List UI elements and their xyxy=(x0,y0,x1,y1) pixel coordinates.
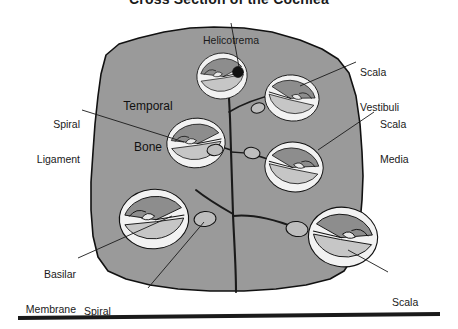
label-basilar-membrane-line1: Basilar xyxy=(2,269,76,281)
label-scala-media-line2: Media xyxy=(380,154,456,166)
label-spiral-ligament-line2: Ligament xyxy=(6,154,80,166)
temporal-bone-label-line1: Temporal xyxy=(104,100,192,114)
label-basilar-membrane: Basilar Membrane xyxy=(2,246,76,329)
label-helicotrema-line1: Helicotrema xyxy=(178,35,284,47)
label-scala-tympani: Scala Tympani xyxy=(392,274,458,329)
label-scala-tympani-line1: Scala xyxy=(392,297,458,309)
label-spiral-ligament: Spiral Ligament xyxy=(6,96,80,189)
bottom-rule xyxy=(18,314,440,318)
cochlea-cross-section-figure: Cross Section of the Cochlea xyxy=(0,0,458,329)
label-scala-vestibuli-line1: Scala xyxy=(360,67,456,79)
label-spiral-ganglia-line1: Spiral xyxy=(84,306,154,318)
label-scala-media-line1: Scala xyxy=(380,119,456,131)
label-basilar-membrane-line2: Membrane xyxy=(2,304,76,316)
temporal-bone-label: Temporal Bone xyxy=(104,73,192,181)
label-helicotrema: Helicotrema xyxy=(178,12,284,70)
temporal-bone-label-line2: Bone xyxy=(104,141,192,155)
label-scala-media: Scala Media xyxy=(380,96,456,189)
label-spiral-ganglia: Spiral Ganglia xyxy=(84,283,154,329)
label-spiral-ligament-line1: Spiral xyxy=(6,119,80,131)
